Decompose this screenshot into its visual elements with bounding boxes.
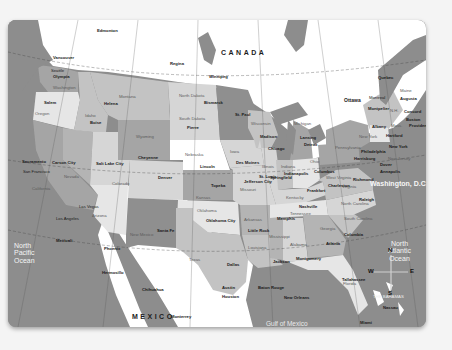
- city-label: Phoenix: [104, 247, 120, 251]
- city-label: Albany: [372, 125, 386, 129]
- city-label: New York: [389, 145, 408, 149]
- state-label: Kentucky: [286, 196, 304, 200]
- city-label: Mexicali: [56, 239, 72, 243]
- compass-w: W: [368, 268, 374, 274]
- city-label: Tallahassee: [342, 278, 365, 282]
- ocean-label-pacific: North Pacific Ocean: [14, 242, 35, 264]
- state-label: Michigan: [294, 122, 311, 126]
- state-label: Colorado: [112, 182, 129, 186]
- city-label: Jefferson City: [244, 180, 272, 184]
- city-label: Richmond: [353, 178, 373, 182]
- city-label: Detroit: [304, 143, 318, 147]
- state-label: California: [32, 187, 50, 191]
- city-label: Annapolis: [380, 170, 400, 174]
- compass-n: N: [388, 247, 392, 253]
- compass-s: S: [388, 290, 392, 296]
- city-label: Concord: [404, 110, 421, 114]
- city-label: Salem: [44, 101, 56, 105]
- city-label: Quebec: [378, 76, 393, 80]
- city-label: Pierre: [187, 126, 199, 130]
- city-label: Philadelphia: [361, 150, 386, 154]
- gulf-label: Gulf of Mexico: [266, 321, 308, 327]
- city-label: Memphis: [277, 217, 295, 221]
- state-label: Texas: [189, 258, 200, 262]
- country-label-canada: CANADA: [221, 49, 266, 56]
- national-capital-label: Washington, D.C.: [370, 180, 426, 187]
- city-label: Chicago: [268, 147, 285, 151]
- state-label: Georgia: [320, 227, 335, 231]
- city-label: Winnipeg: [209, 75, 228, 79]
- city-label: Raleigh: [359, 198, 374, 202]
- compass-e: E: [410, 268, 414, 274]
- state-label: Alabama: [290, 243, 307, 247]
- city-label: Indianapolis: [284, 172, 308, 176]
- city-label: Columbia: [344, 233, 363, 237]
- city-label: Topeka: [211, 184, 225, 188]
- city-label: Las Vegas: [79, 205, 99, 209]
- state-label: North Carolina: [341, 202, 369, 206]
- state-label: Missouri: [240, 188, 256, 192]
- state-label: Ohio: [310, 160, 319, 164]
- city-label: Carson City: [52, 161, 76, 165]
- city-label: Atlanta: [326, 242, 340, 246]
- state-label: Arkansas: [244, 218, 262, 222]
- city-label: Dover: [380, 163, 392, 167]
- city-label: Columbus: [314, 170, 334, 174]
- city-label: Helena: [104, 102, 118, 106]
- city-label: Montreal: [369, 96, 385, 100]
- city-label: St. Paul: [235, 113, 250, 117]
- state-label: Mississippi: [269, 235, 290, 239]
- state-label: Pennsylvania: [335, 146, 361, 150]
- city-label: Sacramento: [22, 160, 46, 164]
- city-label: Montpelier: [368, 107, 389, 111]
- city-label: Madison: [260, 135, 277, 139]
- city-label: Charleston: [328, 184, 350, 188]
- city-label: Harrisburg: [354, 157, 375, 161]
- state-label: Arizona: [92, 214, 107, 218]
- city-label: Chihuahua: [142, 288, 164, 292]
- city-label: Jackson: [273, 260, 290, 264]
- city-label: Hartford: [386, 134, 403, 138]
- city-label: Boston: [406, 118, 420, 122]
- city-label: Dallas: [227, 263, 239, 267]
- city-label: Bismarck: [204, 101, 223, 105]
- state-label: Maine: [400, 89, 412, 93]
- state-label: Washington: [53, 86, 76, 90]
- city-label: Salt Lake City: [96, 162, 123, 166]
- city-label: Lincoln: [200, 165, 215, 169]
- state-label: South Dakota: [179, 117, 205, 121]
- state-label: New Mexico: [130, 233, 153, 237]
- city-label: San Francisco: [23, 170, 50, 174]
- state-label: Oklahoma: [197, 209, 217, 213]
- state-label: N.H.: [390, 109, 399, 113]
- city-label: Frankfort: [307, 189, 325, 193]
- state-label: Illinois: [262, 165, 274, 169]
- state-label: North Dakota: [179, 94, 204, 98]
- map-frame: CANADA MEXICO North Pacific Ocean North …: [8, 20, 426, 327]
- state-label: Kansas: [196, 196, 210, 200]
- state-label: Nevada: [64, 175, 79, 179]
- city-label: Vancouver: [53, 56, 74, 60]
- city-label: Monterrey: [171, 315, 191, 319]
- country-label-mexico: MEXICO: [132, 313, 175, 320]
- city-label: Augusta: [400, 97, 417, 101]
- city-label: Miami: [360, 321, 372, 325]
- city-label: Nashville: [299, 205, 317, 209]
- state-label: Wyoming: [136, 135, 154, 139]
- city-label: Little Rock: [248, 229, 269, 233]
- city-label: Lansing: [300, 136, 316, 140]
- city-label: Santa Fe: [157, 229, 174, 233]
- city-label: New Orleans: [284, 296, 309, 300]
- state-label: Idaho: [85, 114, 96, 118]
- state-label: Indiana: [281, 165, 295, 169]
- city-label: Montgomery: [296, 257, 321, 261]
- state-label: Wisconsin: [251, 122, 271, 126]
- city-label-nassau: Nassau: [383, 306, 398, 310]
- state-label: Mass.: [391, 124, 402, 128]
- state-label: New Jersey: [388, 157, 410, 161]
- state-label: New York: [359, 135, 377, 139]
- state-label: West Virginia: [326, 176, 351, 180]
- city-label: Des Moines: [236, 161, 259, 165]
- city-label: Los Angeles: [56, 217, 79, 221]
- city-label: Edmonton: [97, 29, 118, 33]
